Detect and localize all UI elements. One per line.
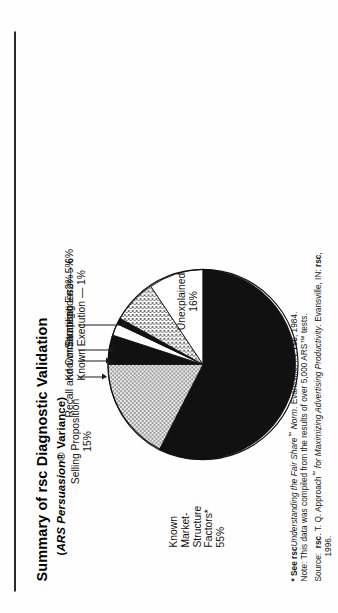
pie-chart (104, 265, 302, 463)
callout-selling-proposition: Selling Proposition 15% (70, 387, 93, 495)
leader-arrow-known-execution (110, 347, 115, 353)
footnote3-label: Source: (313, 552, 323, 581)
page-title: Summary of rsc Diagnostic Validation (34, 317, 50, 581)
footnote-line-2: Note: This data was compiled from the re… (299, 252, 310, 581)
known-market-value: 55% (215, 526, 226, 547)
rotated-page-canvas: Summary of rsc Diagnostic Validation (AR… (0, 0, 338, 613)
leader-arrow-known-strategic (106, 358, 111, 364)
leader-arrow-sampling-error (122, 322, 127, 328)
footnote3-tail: . Evansville, IN: (313, 266, 323, 325)
subtitle-open-paren: ( (55, 551, 67, 555)
footnote3-comma: , (313, 252, 323, 254)
callout-sampling-error: Sampling Error — 6% (64, 248, 76, 348)
footnote3-italic: for Maximizing Advertising Productivity (313, 326, 323, 470)
footnote-line-1: * See rscUnderstanding the Fair Share™ N… (286, 252, 299, 581)
known-market-line3: Structure (192, 505, 203, 547)
known-market-line1: Known (168, 516, 179, 547)
footnote3-mid: . T. Q. Approach (313, 476, 323, 535)
footnote1-italic: Understanding the Fair Share (289, 437, 299, 546)
known-market-line4: Factors* (203, 509, 214, 547)
selling-proposition-value: 15% (82, 431, 93, 452)
scanned-page: Summary of rsc Diagnostic Validation (AR… (0, 0, 338, 613)
footnote1-year: , 1984. (289, 311, 299, 336)
unexplained-label: Unexplained (176, 272, 187, 329)
footnote3-rsc2: rsc (313, 254, 323, 266)
selling-proposition-label: Selling Proposition (70, 398, 81, 483)
leader-arrow-recall (102, 374, 107, 380)
footnote-line-3: Source: rsc. T. Q. Approach™ for Maximiz… (310, 252, 323, 581)
footnote1-prefix: * See (289, 558, 299, 581)
footnote1-italic2: Norm (289, 408, 299, 431)
footnote1-tail: . Evansville, IN: (289, 349, 299, 408)
page-subtitle: (ARS Persuasion® Variance) (55, 396, 67, 555)
callout-known-market-structure: Known Market- Structure Factors* 55% (168, 505, 227, 547)
callout-known-execution: Known Execution — 1% (76, 270, 88, 380)
subtitle-italic: ARS Persuasion (55, 460, 67, 551)
known-market-line2: Market- (180, 512, 191, 547)
footnote3-rsc: rsc (313, 535, 323, 547)
subtitle-registered: ® (55, 452, 67, 461)
footnote1-tm: ™ (288, 431, 294, 437)
footnote1-rsc2: rsc (289, 337, 299, 349)
pie-chart-svg (104, 265, 302, 463)
callout-unexplained: Unexplained 16% (176, 261, 199, 341)
footnote3-tm: ™ (312, 470, 318, 476)
footnotes: * See rscUnderstanding the Fair Share™ N… (286, 252, 334, 581)
page-edge-rule (14, 31, 16, 591)
footnote1-rsc: rsc (289, 546, 299, 558)
unexplained-value: 16% (188, 291, 199, 312)
footnote-line-4: 1996. (323, 252, 334, 581)
